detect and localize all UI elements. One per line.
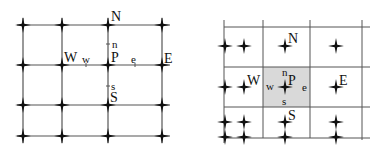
left-grid-lines <box>17 18 170 143</box>
left-label-P: P <box>111 50 119 65</box>
right-label-E: E <box>339 73 348 88</box>
left-label-e: e <box>131 53 136 65</box>
left-label-w: w <box>82 53 90 65</box>
right-label-w: w <box>266 80 274 92</box>
finite-volume-grid-figure: N n P W w e E s S <box>0 0 385 151</box>
right-label-N: N <box>288 31 298 46</box>
left-label-n: n <box>112 38 118 50</box>
right-label-s: s <box>282 95 286 107</box>
left-grid-nodes <box>15 17 170 144</box>
left-label-N: N <box>111 9 121 24</box>
left-label-W: W <box>64 50 78 65</box>
right-label-P: P <box>288 73 296 88</box>
left-label-E: E <box>164 51 173 66</box>
right-grid-diagram: N n P W w e E s S <box>217 20 370 145</box>
left-grid-diagram: N n P W w e E s S <box>15 9 173 144</box>
right-label-e: e <box>302 81 307 93</box>
left-label-S: S <box>110 90 118 105</box>
right-label-S: S <box>288 108 296 123</box>
right-label-W: W <box>247 73 261 88</box>
